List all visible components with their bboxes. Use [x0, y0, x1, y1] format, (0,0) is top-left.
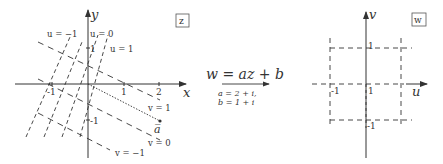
w-tick-v-bottom: -1 [367, 121, 376, 131]
conj-a-label: a̅ [154, 123, 161, 136]
v-grid-lines [38, 42, 160, 150]
v-line-label-0: v = 0 [147, 138, 171, 148]
v-line-label-neg1: v = −1 [114, 148, 145, 158]
param-a: a = 2 + i, [218, 89, 257, 98]
w-tick-v-top: 1 [368, 41, 374, 51]
y-tick-1: 1 [90, 44, 96, 54]
w-plane-label: w [414, 15, 422, 25]
complex-mapping-diagram: x y -1 1 2 1 -1 u = −1 u = 0 u = 1 v = 1… [0, 0, 443, 164]
w-plane-plot: v u 1 -1 1 -1 w [312, 7, 427, 158]
w-tick-u-left: -1 [331, 86, 340, 96]
v-axis-label: v [369, 7, 377, 22]
v-line-label-1: v = 1 [147, 103, 171, 113]
u-line-label-1: u = 1 [110, 44, 133, 54]
mapping: w = az + b a = 2 + i, b = 1 + i [206, 66, 284, 107]
x-tick-2: 2 [156, 87, 162, 97]
x-axis-label: x [183, 85, 191, 100]
u-axis-label: u [412, 84, 420, 99]
y-tick-neg1: -1 [90, 116, 99, 126]
x-tick-1: 1 [121, 87, 127, 97]
x-tick-neg1: -1 [47, 87, 56, 97]
u-line-label-neg1: u = −1 [47, 29, 78, 39]
u-line-label-0: u = 0 [90, 29, 113, 39]
w-tick-origin: 1 [368, 86, 374, 96]
z-plane-label: z [179, 16, 184, 26]
z-plane-plot: x y -1 1 2 1 -1 u = −1 u = 0 u = 1 v = 1… [15, 7, 191, 158]
y-axis-label: y [90, 7, 99, 22]
param-b: b = 1 + i [218, 98, 255, 107]
w-grid-lines [312, 38, 412, 128]
mapping-formula: w = az + b [206, 66, 284, 82]
